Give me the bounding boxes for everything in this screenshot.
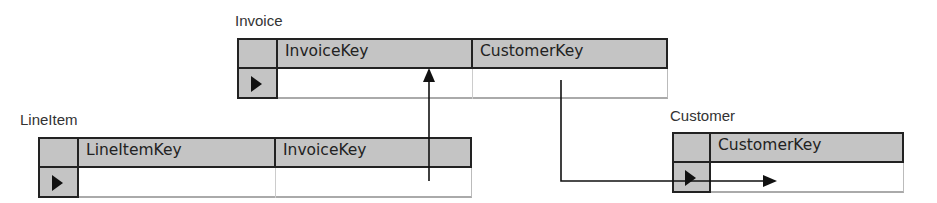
relationship-lines [0,0,937,203]
invoice-to-customer-arrow [561,80,777,187]
lineitem-to-invoice-arrow [423,68,435,181]
